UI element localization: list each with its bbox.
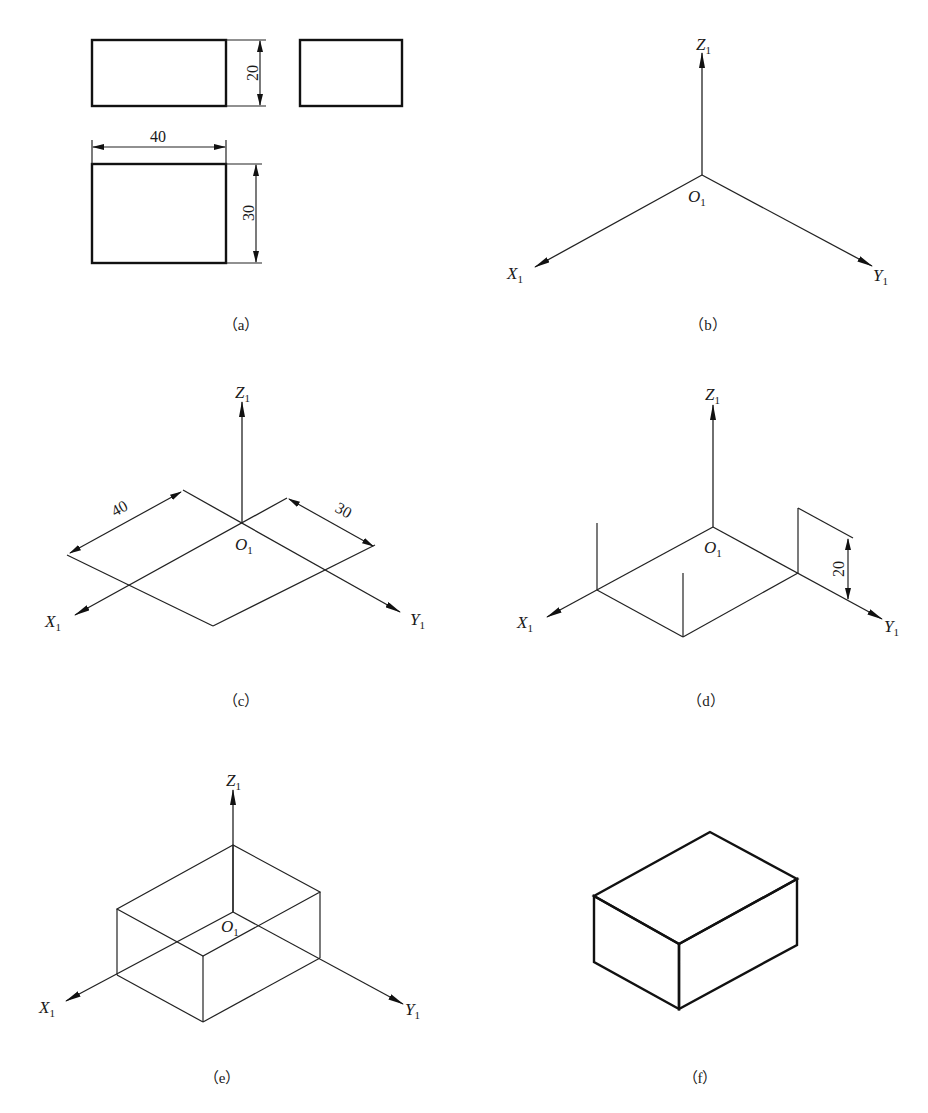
- dimension-width-30: 30: [289, 499, 373, 546]
- axis-label-x: X1: [38, 998, 55, 1019]
- axis-label-y: Y1: [884, 617, 899, 638]
- panel-caption: （e）: [204, 1070, 241, 1086]
- axis-label-y: Y1: [410, 610, 425, 631]
- panel-a-three-views: 20 40 30 （a）: [92, 40, 402, 333]
- dimension-height-20: 20: [798, 508, 853, 599]
- panel-c-base-layout: 40 30 Z1 O1 X1 Y1 （c）: [44, 383, 425, 709]
- dimension-label: 40: [150, 128, 166, 145]
- dimension-label: 20: [244, 65, 261, 81]
- dimension-width-30: 30: [226, 164, 262, 263]
- isometric-construction-figure: 20 40 30 （a） Z1 O1 X1 Y1 （b）: [0, 0, 928, 1113]
- panel-caption: （c）: [223, 693, 260, 709]
- axis-label-z: Z1: [235, 383, 250, 404]
- axis-label-x: X1: [516, 613, 533, 634]
- axis-label-z: Z1: [696, 35, 711, 56]
- axis-label-y: Y1: [873, 266, 888, 287]
- right-face: [679, 879, 797, 1009]
- dimension-label: 20: [830, 561, 847, 577]
- panel-caption: （f）: [683, 1070, 718, 1086]
- panel-f-finished-block: （f）: [594, 832, 797, 1086]
- axis-label-x: X1: [44, 612, 61, 633]
- panel-caption: （a）: [223, 317, 260, 333]
- origin-label: O1: [235, 535, 253, 556]
- panel-caption: （b）: [689, 317, 727, 333]
- left-face: [594, 896, 679, 1009]
- dimension-length-40: 40: [92, 128, 226, 164]
- panel-d-raise-height: 20 Z1 O1 X1 Y1 （d）: [516, 385, 899, 709]
- axis-label-y: Y1: [405, 1000, 420, 1021]
- origin-label: O1: [688, 187, 706, 208]
- panel-b-isometric-axes: Z1 O1 X1 Y1 （b）: [506, 35, 888, 333]
- dimension-height-20: 20: [226, 40, 266, 106]
- origin-label: O1: [221, 917, 239, 938]
- dimension-label: 30: [240, 205, 257, 221]
- dimension-label: 30: [333, 499, 355, 522]
- axis-label-z: Z1: [226, 771, 241, 792]
- top-view-rect: [92, 164, 226, 263]
- panel-caption: （d）: [687, 693, 725, 709]
- top-face: [594, 832, 797, 944]
- panel-e-connect-top: Z1 O1 X1 Y1 （e）: [38, 771, 420, 1086]
- origin-label: O1: [704, 538, 722, 559]
- side-view-rect: [300, 40, 402, 106]
- dimension-length-40: 40: [70, 492, 181, 553]
- dimension-label: 40: [108, 497, 130, 520]
- front-view-rect: [92, 40, 226, 106]
- axis-label-z: Z1: [705, 385, 720, 406]
- axis-label-x: X1: [506, 264, 523, 285]
